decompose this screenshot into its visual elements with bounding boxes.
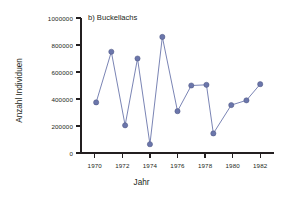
data-point-marker — [109, 49, 114, 54]
data-point-marker — [244, 98, 249, 103]
chart-panel-title: b) Buckellachs — [88, 13, 137, 22]
data-point-marker — [258, 82, 263, 87]
data-point-marker — [147, 142, 152, 147]
data-line-series — [96, 37, 260, 144]
y-axis-tick-label: 400000 — [0, 96, 73, 103]
x-axis-tick-label: 1980 — [225, 162, 239, 169]
x-axis-title: Jahr — [0, 178, 283, 187]
y-axis-tick-label: 200000 — [0, 123, 73, 130]
x-axis-ticks — [95, 153, 260, 158]
data-point-marker — [123, 123, 128, 128]
data-point-marker — [160, 34, 165, 39]
x-axis-tick-label: 1974 — [143, 162, 157, 169]
y-axis-tick-label: 600000 — [0, 69, 73, 76]
x-axis-tick-label: 1976 — [170, 162, 184, 169]
axis-lines — [81, 18, 274, 153]
y-axis-tick-label: 800000 — [0, 42, 73, 49]
data-point-marker — [211, 131, 216, 136]
y-axis-ticks — [76, 18, 81, 153]
x-axis-tick-label: 1970 — [88, 162, 102, 169]
series-polyline — [96, 37, 260, 144]
y-axis-tick-label: 1000000 — [0, 15, 73, 22]
x-axis-tick-label: 1978 — [198, 162, 212, 169]
data-point-marker — [229, 102, 234, 107]
data-point-marker — [135, 56, 140, 61]
chart-figure: 02000004000006000008000001000000 1970197… — [0, 0, 283, 200]
data-point-marker — [175, 109, 180, 114]
x-axis-tick-label: 1982 — [253, 162, 267, 169]
data-point-marker — [189, 83, 194, 88]
data-point-marker — [204, 82, 209, 87]
data-point-marker — [94, 100, 99, 105]
y-axis-tick-label: 0 — [0, 150, 73, 157]
x-axis-tick-label: 1972 — [115, 162, 129, 169]
y-axis-title: Anzahl Individuen — [15, 41, 24, 141]
